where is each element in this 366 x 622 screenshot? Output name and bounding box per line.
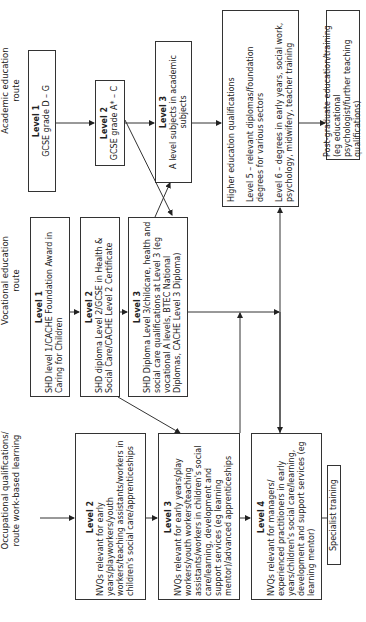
level-label: Level 3	[164, 438, 174, 596]
box-text: NVQs relevant for early years/playworker…	[96, 438, 136, 596]
academic-route-text: Academic education route	[0, 47, 20, 133]
vocational-route-text: Vocational education route	[0, 236, 20, 325]
academic-route-label: Academic education route	[0, 36, 21, 146]
vocational-route-label: Vocational education route	[0, 226, 21, 336]
level-label: Level 3	[159, 45, 169, 179]
box-text: NVQs relevant for early years/play worke…	[174, 438, 234, 596]
academic-level-2-box: Level 2 GCSE grade A* – C	[95, 80, 125, 166]
level-label: Level 1	[35, 221, 45, 393]
vocational-level-3-box: Level 3 SHD Diploma Level 3/childcare, h…	[128, 217, 188, 397]
box-text: SHD Diploma Level 3/childcare, health an…	[143, 221, 183, 393]
occupational-route-line1: Occupational qualifications/	[0, 431, 10, 551]
level-label: Level 3	[133, 221, 143, 393]
level-label: Level 2	[100, 83, 110, 163]
level-label: Level 4	[257, 438, 267, 596]
academic-level-1-box: Level 1 GCSE grade D – G	[28, 50, 56, 192]
vocational-level-1-box: Level 1 SHD level 1/CACHE Foundation Awa…	[30, 217, 70, 397]
box-text: SHD level 1/CACHE Foundation Award in Ca…	[45, 221, 65, 393]
specialist-training-box: Specialist training	[327, 465, 341, 565]
box-text: NVQs relevant for managers/ experienced …	[267, 438, 317, 596]
box-text: A level subjects in academic subjects	[169, 45, 189, 179]
occupational-route-label: Occupational qualifications/ route work-…	[0, 431, 21, 551]
box-text: SHD diploma Level 2/GCSE in Health & Soc…	[95, 221, 115, 393]
academic-level-3-box: Level 3 A level subjects in academic sub…	[155, 41, 192, 183]
postgraduate-text: Post-graduate education/training (eg edu…	[323, 13, 363, 157]
occupational-route-line2: route work-based learning	[10, 431, 21, 551]
specialist-text: Specialist training	[329, 467, 339, 563]
level-label: Level 1	[32, 55, 42, 187]
vocational-level-2-box: Level 2 SHD diploma Level 2/GCSE in Heal…	[80, 217, 120, 397]
level-label: Level 2	[85, 221, 95, 393]
level-label: Level 2	[86, 438, 96, 596]
higher-education-box: Higher education qualifications Level 5 …	[222, 10, 299, 207]
he-level-5: Level 5 – relevant diplomas/foundation d…	[246, 16, 266, 202]
he-level-6: Level 6 – degrees in early years, social…	[275, 16, 295, 202]
box-text: GCSE grade A* – C	[110, 83, 120, 163]
box-text: GCSE grade D – G	[42, 55, 52, 187]
he-title: Higher education qualifications	[227, 16, 237, 202]
occupational-level-3-box: Level 3 NVQs relevant for early years/pl…	[158, 433, 240, 600]
occupational-level-4-box: Level 4 NVQs relevant for managers/ expe…	[251, 433, 322, 600]
postgraduate-box: Post-graduate education/training (eg edu…	[326, 10, 360, 160]
occupational-level-2-box: Level 2 NVQs relevant for early years/pl…	[75, 433, 146, 600]
